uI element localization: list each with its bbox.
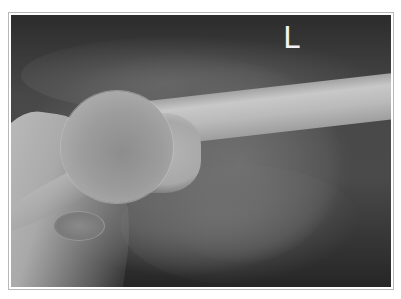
xray-image: L <box>11 15 391 287</box>
xray-frame: L <box>8 12 394 290</box>
coracoid-process <box>53 211 105 241</box>
side-marker: L <box>283 23 300 53</box>
humeral-head <box>61 91 173 203</box>
